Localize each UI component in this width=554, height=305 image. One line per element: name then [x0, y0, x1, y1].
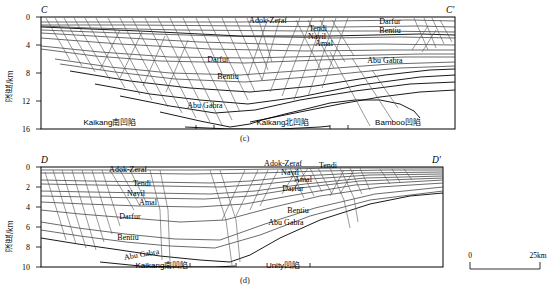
- panel-d-label-amal-east: Amal: [294, 175, 313, 184]
- panel-d-label-amal: Amal: [139, 198, 158, 207]
- panel-c-label-darfur: Darfur: [207, 55, 229, 64]
- panel-c-ytick-0: 0: [26, 13, 30, 22]
- panel-d: 深度/km 0 2 4 6 8 10 D D′: [0, 150, 554, 305]
- panel-d-label-bentiu: Bentiu: [117, 233, 138, 242]
- panel-d-ytick-1: 2: [26, 183, 30, 192]
- scale-bar-right-label: 25km: [529, 251, 546, 260]
- panel-c-ytick-3: 12: [22, 97, 30, 106]
- panel-c-label-adok-zeraf: Adok-Zeraf: [249, 16, 287, 25]
- panel-d-ytick-0: 0: [26, 163, 30, 172]
- figure-container: 深度/km 0 4 8 12 16 C C′: [0, 0, 554, 305]
- panel-c-end-marker: C′: [446, 5, 455, 15]
- panel-d-label-darfur: Darfur: [119, 212, 141, 221]
- scale-bar: 0 25km: [468, 251, 547, 269]
- panel-c-y-axis-title: 深度/km: [4, 42, 16, 102]
- panel-d-y-axis-title: 深度/km: [4, 192, 16, 252]
- panel-d-label-nayil: Nayil: [127, 189, 146, 198]
- panel-d-ytick-3: 6: [26, 223, 30, 232]
- panel-c-label-abu-gabra: Abu Gabra: [187, 101, 223, 110]
- panel-d-ytick-2: 4: [26, 203, 30, 212]
- panel-d-label-tendi-east: Tendi: [319, 161, 338, 170]
- panel-c-label-abu-gabra-east: Abu Gabra: [367, 56, 403, 65]
- panel-d-label-adok-zeraf-east: Adok-Zeraf: [264, 159, 302, 168]
- panel-d-label-adok-zeraf: Adok-Zeraf: [109, 165, 147, 174]
- panel-c-plot: 0 4 8 12 16 C C′: [0, 0, 554, 150]
- panel-d-caption: (d): [240, 275, 250, 285]
- panel-c-ytick-4: 16: [22, 125, 30, 134]
- panel-d-ytick-5: 10: [22, 263, 30, 272]
- panel-d-label-bentiu-east: Bentiu: [287, 206, 308, 215]
- panel-c-label-amal: Amal: [315, 39, 334, 48]
- panel-c-label-bentiu-east: Bentiu: [379, 26, 400, 35]
- panel-c-label-bamboo: Bamboo凹陷: [375, 117, 421, 127]
- panel-d-y-axis: 0 2 4 6 8 10: [22, 163, 41, 272]
- panel-d-label-abu-gabra-east: Abu Gabra: [268, 218, 304, 227]
- panel-d-start-marker: D: [40, 155, 48, 165]
- panel-d-label-kaikang-south: Kaikang南凹陷: [136, 260, 189, 270]
- panel-d-end-marker: D′: [431, 155, 442, 165]
- panel-d-label-darfur-east: Darfur: [282, 184, 304, 193]
- panel-c-ytick-1: 4: [26, 41, 30, 50]
- panel-c-y-axis: 0 4 8 12 16: [22, 13, 41, 134]
- panel-c-caption: (c): [240, 133, 249, 143]
- panel-d-ytick-4: 8: [26, 243, 30, 252]
- panel-d-label-tendi: Tendi: [133, 179, 152, 188]
- panel-c-label-bentiu: Bentiu: [217, 72, 238, 81]
- panel-c-label-darfur-east: Darfur: [379, 17, 401, 26]
- scale-bar-left-label: 0: [468, 251, 472, 260]
- panel-d-frame: [41, 167, 443, 267]
- panel-d-plot: 0 2 4 6 8 10 D D′: [0, 150, 554, 305]
- panel-c-label-kaikang-south: Kaikang南凹陷: [84, 117, 137, 127]
- panel-c-start-marker: C: [41, 5, 48, 15]
- panel-d-label-unity: Unity凹陷: [266, 260, 300, 270]
- panel-c-label-kaikang-north: Kaikang北凹陷: [257, 117, 310, 127]
- panel-c-ytick-2: 8: [26, 69, 30, 78]
- panel-c: 深度/km 0 4 8 12 16 C C′: [0, 0, 554, 150]
